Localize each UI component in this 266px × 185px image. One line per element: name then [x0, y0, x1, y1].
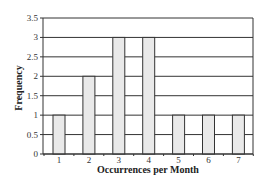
y-tick-label: 3.5 — [27, 13, 39, 23]
x-tick-label: 6 — [206, 155, 211, 165]
y-tick-label: 1.5 — [27, 91, 39, 101]
bar-1 — [53, 115, 65, 154]
chart-canvas: 00.511.522.533.5 1234567 Frequency Occur… — [0, 0, 266, 185]
y-tick-label: 3 — [34, 32, 39, 42]
y-tick-label: 2.5 — [27, 52, 39, 62]
bar-chart: 00.511.522.533.5 1234567 Frequency Occur… — [0, 0, 266, 185]
bar-2 — [83, 76, 95, 154]
y-tick-labels: 00.511.522.533.5 — [27, 13, 39, 159]
x-axis-label: Occurrences per Month — [97, 164, 199, 175]
bar-5 — [173, 115, 185, 154]
y-tick-label: 0.5 — [27, 130, 39, 140]
y-tick-label: 2 — [34, 71, 39, 81]
y-tick-label: 0 — [34, 149, 39, 159]
x-tick-label: 2 — [87, 155, 92, 165]
bar-4 — [143, 37, 155, 154]
y-tick-label: 1 — [34, 110, 39, 120]
x-tick-label: 7 — [236, 155, 241, 165]
y-axis-label: Frequency — [13, 65, 24, 110]
bar-7 — [232, 115, 244, 154]
x-tick-label: 1 — [57, 155, 62, 165]
bar-3 — [113, 37, 125, 154]
bar-6 — [203, 115, 215, 154]
